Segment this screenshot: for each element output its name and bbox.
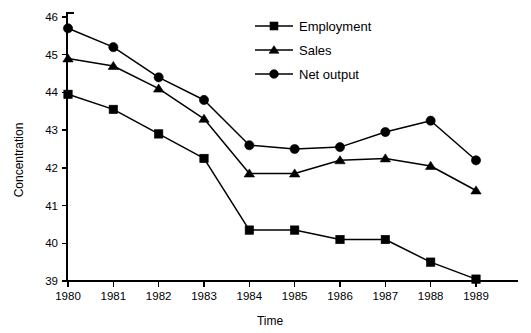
- y-tick-labels: 3940414243444546: [45, 11, 58, 287]
- marker-circle: [471, 156, 480, 165]
- x-tick-marks: [68, 281, 476, 287]
- marker-triangle: [471, 186, 481, 194]
- y-tick-label: 44: [45, 86, 58, 98]
- x-tick-label: 1986: [327, 290, 353, 302]
- x-tick-label: 1988: [418, 290, 444, 302]
- series-line: [68, 28, 476, 160]
- marker-circle: [381, 127, 390, 136]
- y-tick-label: 46: [45, 11, 58, 23]
- marker-circle: [154, 73, 163, 82]
- marker-square: [200, 154, 208, 162]
- marker-triangle: [199, 114, 209, 122]
- x-tick-label: 1987: [373, 290, 399, 302]
- x-tick-label: 1983: [191, 290, 217, 302]
- marker-circle: [426, 116, 435, 125]
- chart-legend: EmploymentSalesNet output: [255, 19, 372, 82]
- marker-square: [154, 130, 162, 138]
- data-series-group: [63, 24, 481, 284]
- marker-square: [64, 90, 72, 98]
- x-axis-group: 1980198119821983198419851986198719881989…: [55, 281, 518, 328]
- y-axis-group: 3940414243444546 Concentration: [12, 11, 74, 287]
- x-axis-title: Time: [257, 314, 284, 328]
- x-tick-label: 1989: [463, 290, 489, 302]
- chart-canvas: 3940414243444546 Concentration 198019811…: [0, 0, 531, 333]
- legend-item-net-output: Net output: [255, 67, 359, 82]
- x-tick-label: 1980: [55, 290, 81, 302]
- y-tick-label: 39: [45, 275, 58, 287]
- y-axis-title: Concentration: [12, 123, 26, 198]
- marker-circle: [63, 24, 72, 33]
- x-tick-label: 1981: [101, 290, 127, 302]
- x-tick-labels: 1980198119821983198419851986198719881989: [55, 290, 489, 302]
- marker-square: [336, 235, 344, 243]
- y-tick-label: 45: [45, 49, 58, 61]
- legend-item-sales: Sales: [255, 43, 332, 58]
- legend-label: Net output: [299, 67, 359, 82]
- y-tick-label: 42: [45, 162, 58, 174]
- marker-triangle: [153, 84, 163, 92]
- marker-square: [381, 235, 389, 243]
- legend-item-employment: Employment: [255, 19, 372, 34]
- marker-square: [270, 22, 278, 30]
- x-tick-label: 1982: [146, 290, 172, 302]
- legend-label: Employment: [299, 19, 372, 34]
- marker-square: [245, 226, 253, 234]
- marker-square: [426, 258, 434, 266]
- x-tick-label: 1985: [282, 290, 308, 302]
- series-employment: [64, 90, 480, 283]
- marker-square: [472, 275, 480, 283]
- series-net-output: [63, 24, 480, 165]
- marker-square: [109, 105, 117, 113]
- marker-circle: [109, 43, 118, 52]
- marker-circle: [270, 70, 279, 79]
- y-tick-label: 43: [45, 124, 58, 136]
- marker-circle: [245, 141, 254, 150]
- series-line: [68, 94, 476, 279]
- legend-label: Sales: [299, 43, 332, 58]
- marker-circle: [335, 143, 344, 152]
- x-tick-label: 1984: [237, 290, 263, 302]
- y-tick-label: 41: [45, 200, 58, 212]
- marker-circle: [199, 95, 208, 104]
- marker-square: [290, 226, 298, 234]
- line-chart: 3940414243444546 Concentration 198019811…: [0, 0, 531, 333]
- marker-circle: [290, 144, 299, 153]
- y-tick-label: 40: [45, 237, 58, 249]
- y-axis-line: [67, 13, 74, 281]
